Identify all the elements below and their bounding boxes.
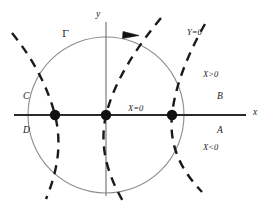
y-axis-label: y [96,10,100,20]
x-less-than-zero-label: X<0 [203,143,218,152]
region-label-d: D [23,126,30,136]
x-axis-label: x [253,108,257,118]
region-label-a: A [217,126,223,136]
y-equals-zero-label: Y=0 [187,28,202,37]
phase-portrait-figure: y x Γ X=0 Y=0 X>0 X<0 B A C D [0,0,271,213]
region-label-b: B [217,92,223,102]
right-nullcline-curve [172,24,205,192]
equilibrium-point-right [167,110,177,120]
equilibrium-point-origin [101,110,111,120]
equilibrium-point-left [50,110,60,120]
direction-arrow-icon [123,32,140,39]
region-label-c: C [23,92,29,102]
x-greater-than-zero-label: X>0 [203,70,218,79]
gamma-curve-label: Γ [62,29,69,39]
x-equals-zero-label: X=0 [128,104,143,113]
